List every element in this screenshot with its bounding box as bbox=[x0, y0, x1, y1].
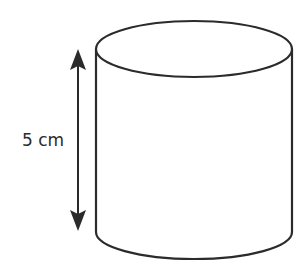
cylinder-diagram: 5 cm bbox=[0, 0, 300, 270]
cylinder bbox=[96, 21, 292, 259]
cylinder-top-ellipse bbox=[96, 21, 292, 77]
height-arrow bbox=[70, 49, 86, 231]
height-label: 5 cm bbox=[22, 130, 64, 150]
cylinder-bottom-curve bbox=[96, 232, 292, 259]
